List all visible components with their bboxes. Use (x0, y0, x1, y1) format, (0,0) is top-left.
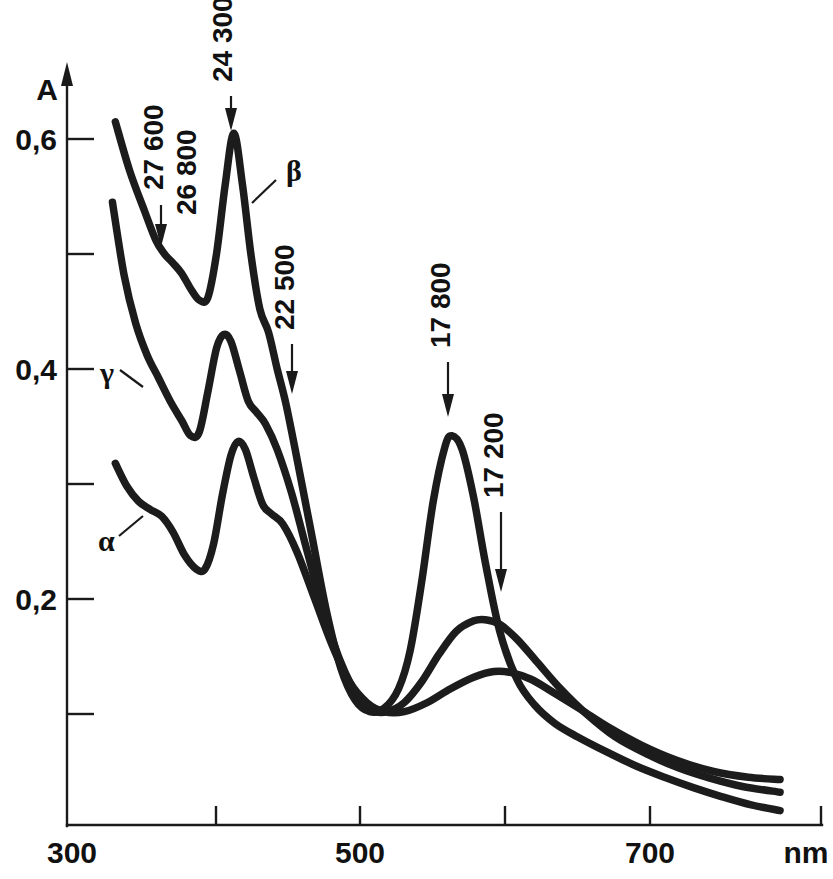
annotation-22500-arrow-icon (286, 371, 298, 394)
spectrum-curve-beta (115, 122, 780, 811)
annotation-17800-arrow-icon (442, 394, 454, 417)
annotation-17800: 17 800 (425, 262, 456, 417)
curve-label-alpha-leader (119, 516, 143, 536)
annotation-17200-arrow-icon (495, 569, 507, 592)
annotation-22500: 22 500 (269, 244, 300, 394)
annotation-17200-label: 17 200 (478, 412, 509, 498)
x-axis-unit-label: nm (784, 836, 829, 869)
spectrum-chart: A 0,6 0,4 0,2 300 500 700 nm 27 600 26 8… (0, 0, 833, 879)
x-tick-label-300: 300 (47, 836, 97, 869)
y-tick-label-04: 0,4 (15, 353, 57, 386)
curve-label-gamma-leader (120, 370, 143, 387)
annotation-27600-label: 27 600 (138, 104, 169, 190)
annotation-24300-arrow-icon (225, 108, 237, 131)
annotation-22500-label: 22 500 (269, 244, 300, 330)
curve-label-gamma: γ (99, 356, 114, 389)
figure-container: A 0,6 0,4 0,2 300 500 700 nm 27 600 26 8… (0, 0, 833, 879)
curve-label-beta: β (286, 154, 302, 187)
curve-label-alpha: α (98, 524, 115, 557)
annotation-26800-label: 26 800 (171, 129, 202, 215)
curve-label-gamma-group: γ (99, 356, 143, 389)
annotation-17800-label: 17 800 (425, 262, 456, 348)
annotation-24300-label: 24 300 (207, 0, 238, 82)
curve-label-alpha-group: α (98, 516, 143, 557)
x-tick-label-700: 700 (625, 836, 675, 869)
x-tick-group (216, 806, 650, 825)
annotation-24300: 24 300 (207, 0, 238, 131)
curve-label-beta-group: β (252, 154, 302, 203)
y-tick-label-06: 0,6 (15, 123, 57, 156)
x-tick-label-500: 500 (335, 836, 385, 869)
y-axis-arrow-icon (61, 62, 73, 86)
curve-group (112, 122, 780, 811)
y-axis-title: A (36, 73, 58, 106)
y-tick-label-02: 0,2 (15, 583, 57, 616)
curve-label-beta-leader (252, 180, 276, 203)
annotation-26800: 26 800 (171, 129, 202, 215)
y-tick-group (67, 139, 94, 714)
spectrum-curve-alpha (115, 441, 780, 779)
